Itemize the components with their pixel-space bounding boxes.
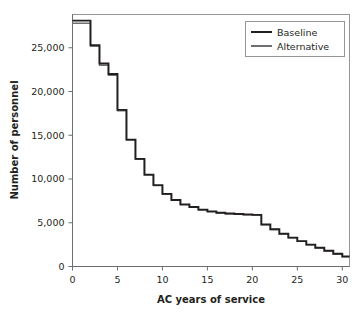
- y-tick-label-group: 05,00010,00015,00020,00025,000: [31, 42, 64, 272]
- chart-figure: 05,00010,00015,00020,00025,000 051015202…: [0, 0, 361, 318]
- x-tick-label-group: 051015202530: [69, 274, 348, 285]
- y-tick-label: 15,000: [31, 130, 64, 141]
- x-tick-label: 10: [156, 274, 168, 285]
- x-tick-label: 20: [246, 274, 258, 285]
- y-tick-label: 25,000: [31, 42, 64, 53]
- y-axis-title: Number of personnel: [9, 80, 20, 199]
- y-tick-label: 10,000: [31, 173, 64, 184]
- x-tick-label: 25: [291, 274, 303, 285]
- legend-label-alternative: Alternative: [277, 41, 329, 52]
- y-tick-label: 5,000: [37, 217, 64, 228]
- legend-label-baseline: Baseline: [277, 27, 317, 38]
- step-chart: 05,00010,00015,00020,00025,000 051015202…: [0, 0, 361, 318]
- legend: Baseline Alternative: [246, 22, 345, 57]
- x-tick-label: 0: [69, 274, 75, 285]
- y-tick-group: [69, 48, 73, 267]
- x-axis-title: AC years of service: [157, 294, 265, 305]
- x-tick-label: 30: [336, 274, 348, 285]
- y-tick-label: 20,000: [31, 86, 64, 97]
- y-tick-label: 0: [58, 261, 64, 272]
- x-tick-label: 15: [201, 274, 213, 285]
- series-line-alternative: [73, 23, 350, 256]
- x-tick-group: [73, 267, 343, 271]
- x-tick-label: 5: [114, 274, 120, 285]
